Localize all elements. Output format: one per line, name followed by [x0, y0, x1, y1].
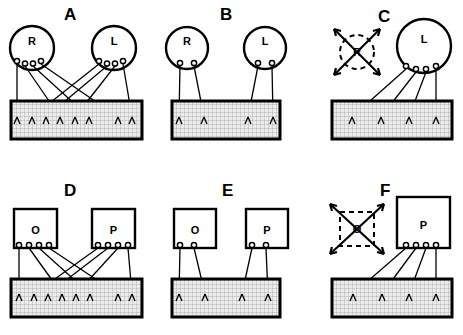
panel-c-source-l-label: L: [421, 33, 428, 45]
figure-root: R L: [0, 0, 463, 335]
panel-e-target[interactable]: [172, 279, 280, 317]
panel-d-source-o[interactable]: O: [14, 209, 57, 248]
panel-d-source-o-label: O: [31, 224, 40, 236]
panel-label-b: B: [220, 6, 232, 23]
panel-a-source-l-label: L: [111, 35, 118, 47]
panel-c-source-r-ablated[interactable]: R: [334, 29, 380, 75]
panel-label-d: D: [64, 182, 76, 199]
panel-b-target[interactable]: [172, 101, 280, 139]
panel-c-source-l[interactable]: L: [397, 19, 451, 73]
panel-label-a: A: [64, 6, 76, 23]
panel-a-source-r[interactable]: R: [10, 26, 54, 70]
panel-d-source-p[interactable]: P: [92, 209, 135, 248]
panel-e-source-p-label: P: [263, 224, 270, 236]
panel-e-source-p[interactable]: P: [246, 209, 288, 248]
panel-b-source-r-label: R: [183, 35, 191, 47]
panel-c: R L: [332, 19, 452, 139]
panel-b-source-r[interactable]: R: [166, 27, 208, 69]
panel-label-c: C: [378, 8, 390, 25]
panel-d-source-p-label: P: [110, 224, 117, 236]
diagram-canvas: R L: [0, 0, 463, 335]
panel-a-source-r-label: R: [28, 35, 36, 47]
panel-f-source-o-ablated[interactable]: O: [330, 204, 384, 254]
panel-b-source-l[interactable]: L: [244, 27, 286, 69]
panel-a: R L: [10, 26, 142, 139]
panel-a-source-l[interactable]: L: [92, 26, 136, 70]
panel-c-target[interactable]: [332, 101, 452, 139]
panel-d: O P: [11, 209, 142, 317]
panel-f-source-p-label: P: [420, 219, 427, 231]
panel-b-source-l-label: L: [262, 35, 269, 47]
panel-e: O P: [172, 209, 288, 317]
panel-e-source-o-label: O: [191, 224, 200, 236]
panel-b: R L: [166, 27, 286, 139]
panel-f-source-p[interactable]: P: [397, 197, 450, 248]
panel-e-source-o[interactable]: O: [174, 209, 216, 248]
panel-f: O P: [330, 197, 452, 317]
panel-label-e: E: [222, 182, 233, 199]
panel-d-target[interactable]: [11, 279, 142, 317]
panel-label-f: F: [380, 182, 390, 199]
